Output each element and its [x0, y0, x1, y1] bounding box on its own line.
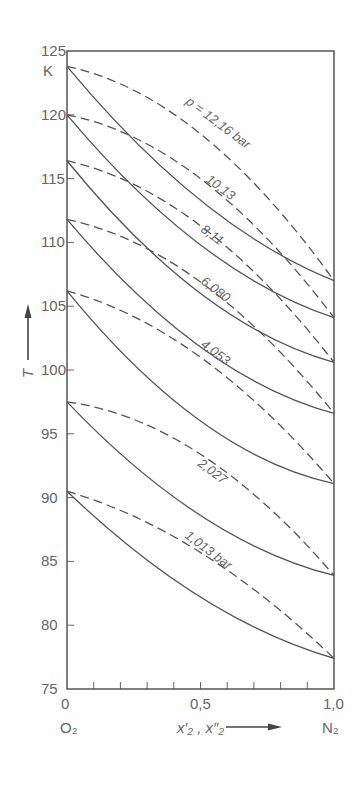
dew-curve: [67, 115, 334, 318]
y-axis-title-text: T: [19, 367, 36, 378]
y-axis-title: T: [19, 304, 36, 378]
y-unit-label: K: [43, 62, 53, 79]
curve-label: 2,027: [194, 455, 230, 488]
y-tick-label: 105: [41, 297, 66, 314]
curve-label: p = 12,16 bar: [182, 93, 254, 152]
x-tick-label-05: 0,5: [190, 695, 211, 712]
y-axis-arrowhead-icon: [25, 304, 32, 318]
dew-curve: [67, 219, 334, 413]
curve-label: 4,053: [198, 336, 234, 368]
plot-frame: [67, 51, 334, 689]
x-tick-label-1: 1,0: [323, 695, 344, 712]
bubble-curve: [67, 219, 334, 413]
x-tick-label-0: 0: [61, 695, 69, 712]
y-tick-label: 80: [41, 616, 58, 633]
bubble-curve: [67, 115, 334, 318]
curve-label: 8,11: [198, 221, 226, 248]
curve-group: [67, 66, 334, 658]
phase-diagram-chart: 7580859095100105110115120125 p = 12,16 b…: [0, 0, 359, 801]
curve-labels: p = 12,16 bar10,138,116,0804,0532,0271,0…: [182, 93, 254, 573]
y-tick-label: 90: [41, 489, 58, 506]
y-tick-label: 110: [41, 233, 65, 250]
curve-label: 6,080: [198, 273, 234, 305]
curve-label: 10,13: [203, 171, 239, 203]
curve-label: 1,013 bar: [182, 527, 235, 572]
bubble-curve: [67, 491, 334, 658]
x-left-component-label: O₂: [60, 719, 78, 736]
y-tick-label: 115: [41, 170, 65, 187]
y-tick-label: 75: [41, 680, 58, 697]
x-axis-arrowhead-icon: [268, 724, 282, 731]
y-tick-label: 85: [41, 552, 58, 569]
x-right-component-label: N₂: [322, 719, 339, 736]
y-tick-label: 120: [41, 106, 66, 123]
y-tick-label: 100: [41, 361, 66, 378]
x-axis-title: x′₂ , x″₂: [176, 719, 224, 736]
dew-curve: [67, 491, 334, 658]
y-tick-label: 95: [41, 425, 58, 442]
y-axis-ticks: 7580859095100105110115120125: [41, 42, 74, 697]
y-tick-label: 125: [41, 42, 66, 59]
x-axis-ticks: [94, 682, 308, 689]
